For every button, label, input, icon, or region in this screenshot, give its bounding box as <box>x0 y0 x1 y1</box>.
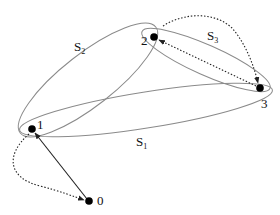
node-0 <box>85 197 93 205</box>
hypergraph-diagram: 0 1 2 3 S1 S2 S3 <box>0 0 280 215</box>
node-label-1: 1 <box>37 117 44 132</box>
node-1 <box>28 125 36 133</box>
edge-2-to-3-dotted <box>163 16 258 83</box>
set-label-s2: S2 <box>74 39 85 56</box>
node-2 <box>150 33 158 41</box>
set-s1-ellipse <box>17 72 275 148</box>
node-label-0: 0 <box>97 193 104 208</box>
node-3 <box>256 84 264 92</box>
node-label-3: 3 <box>261 96 268 111</box>
set-label-s3: S3 <box>207 28 218 45</box>
edge-1-to-0-dotted <box>13 134 84 200</box>
set-label-s1: S1 <box>136 134 147 151</box>
edge-0-to-1-solid <box>35 133 87 199</box>
node-label-2: 2 <box>141 33 148 48</box>
edge-3-to-2-dotted <box>159 40 256 86</box>
